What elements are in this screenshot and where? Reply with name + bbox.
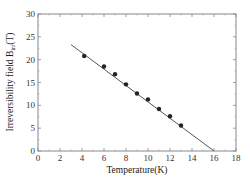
y-tick-label: 15 [26, 78, 36, 88]
y-tick-label: 0 [31, 146, 36, 156]
data-point [146, 97, 150, 101]
data-point [113, 72, 117, 76]
data-point [102, 64, 106, 68]
data-point [168, 114, 172, 118]
y-tick-label: 20 [26, 55, 36, 65]
x-axis-label: Temperature(K) [106, 165, 167, 176]
data-point [157, 107, 161, 111]
linear-fit-line [71, 45, 214, 151]
x-tick-label: 14 [188, 153, 198, 163]
y-tick-label: 10 [26, 100, 36, 110]
data-point [135, 91, 139, 95]
y-tick-label: 25 [26, 32, 36, 42]
x-tick-label: 0 [36, 153, 41, 163]
x-tick-label: 12 [166, 153, 175, 163]
data-point [82, 54, 86, 58]
data-point [124, 82, 128, 86]
y-axis-label: Irreversibility field Birr(T) [5, 32, 16, 131]
plot-frame [38, 14, 236, 151]
data-point [179, 123, 183, 127]
x-tick-label: 16 [210, 153, 220, 163]
x-tick-label: 4 [80, 153, 85, 163]
fit-line [71, 45, 214, 151]
y-tick-label: 30 [26, 9, 36, 19]
axis-ticks: 024681012141618051015202530 [26, 9, 241, 163]
chart: 024681012141618051015202530 Temperature(… [0, 0, 250, 181]
x-tick-label: 18 [232, 153, 242, 163]
y-tick-label: 5 [31, 123, 36, 133]
plot-border [38, 14, 236, 151]
x-tick-label: 8 [124, 153, 129, 163]
x-tick-label: 2 [58, 153, 63, 163]
x-tick-label: 10 [144, 153, 154, 163]
x-tick-label: 6 [102, 153, 107, 163]
